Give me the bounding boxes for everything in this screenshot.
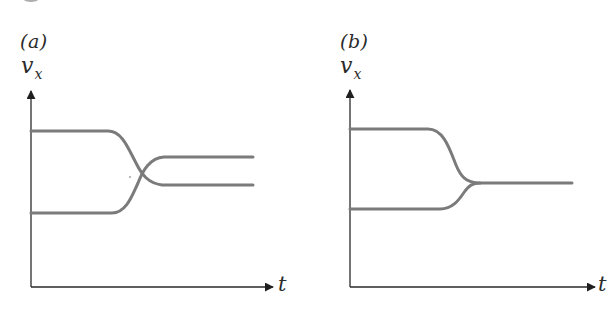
panel-b-axes [350, 90, 595, 287]
panel-b-curves [350, 129, 572, 209]
panel-a-curves [31, 131, 253, 213]
panel-b-curve-lower-start [350, 183, 480, 209]
panel-a-axes [31, 91, 273, 287]
panel-b-curve-upper-start [350, 129, 572, 183]
plot-canvas [0, 0, 612, 311]
panel-a-artifact-dot [129, 176, 131, 178]
